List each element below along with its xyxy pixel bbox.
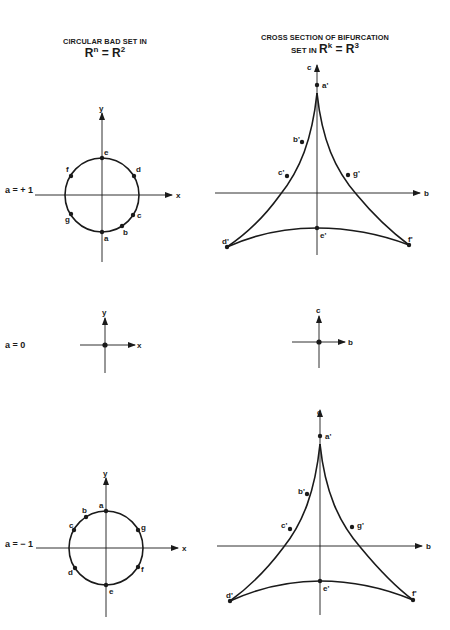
label-d: d [68, 568, 73, 577]
label-c: c [69, 521, 74, 530]
circle-plot-a-plus-1: x y a b c d e f g [35, 104, 181, 262]
y-axis-label: y [103, 469, 108, 478]
c-axis-label: c [317, 408, 322, 417]
point-a-prime [315, 83, 319, 87]
point-b [84, 515, 88, 519]
label-f-prime: f' [408, 235, 413, 244]
label-a-prime: a' [322, 81, 328, 90]
label-c-prime: c' [281, 521, 287, 530]
deltoid-plot-a-minus-1: b c a' b' c' d' e' f' g' [217, 408, 431, 615]
label-b: b [123, 228, 128, 237]
point-d [73, 566, 77, 570]
c-axis-label: c [316, 306, 321, 315]
label-d: d [136, 165, 141, 174]
deltoid-bottom-branch [230, 581, 413, 601]
point-b-prime [305, 492, 309, 496]
deltoid-right-branch [320, 444, 413, 600]
point-f [69, 174, 73, 178]
label-b: b [82, 506, 87, 515]
deltoid-plot-a-0: b c [292, 306, 353, 368]
label-e: e [109, 587, 114, 596]
origin-point [102, 342, 107, 347]
point-e-prime [315, 226, 319, 230]
b-axis-label: b [348, 338, 353, 347]
label-c-prime: c' [278, 168, 284, 177]
circle-plot-a-minus-1: x y a b c d e f g [36, 469, 187, 617]
origin-point [316, 339, 321, 344]
point-e [104, 583, 108, 587]
point-c-prime [288, 527, 292, 531]
x-axis-label: x [176, 191, 181, 200]
label-a: a [99, 501, 104, 510]
label-f-prime: f' [412, 589, 417, 598]
deltoid-left-branch [230, 444, 320, 601]
label-a: a [104, 234, 109, 243]
label-a-prime: a' [325, 432, 331, 441]
deltoid-right-branch [317, 93, 409, 245]
point-a [104, 509, 108, 513]
label-d-prime: d' [222, 237, 229, 246]
point-b-prime [300, 140, 304, 144]
point-f [136, 565, 140, 569]
x-axis-label: x [137, 341, 142, 350]
b-axis-label: b [424, 189, 429, 198]
label-b-prime: b' [293, 135, 300, 144]
label-e: e [104, 148, 109, 157]
deltoid-bottom-branch [227, 228, 409, 247]
label-g: g [65, 215, 70, 224]
label-g-prime: g' [353, 169, 360, 178]
deltoid-left-branch [227, 93, 317, 247]
x-axis-label: x [182, 544, 187, 553]
label-c: c [137, 211, 142, 220]
point-a-prime [318, 434, 322, 438]
label-b-prime: b' [298, 487, 305, 496]
label-e-prime: e' [320, 231, 326, 240]
circle-plot-a-0: x y [80, 308, 142, 373]
point-g [136, 528, 140, 532]
b-axis-label: b [426, 542, 431, 551]
point-f-prime [411, 598, 415, 602]
label-d-prime: d' [226, 591, 233, 600]
label-f: f [66, 165, 69, 174]
label-f: f [141, 565, 144, 574]
point-c-prime [285, 174, 289, 178]
label-g: g [141, 523, 146, 532]
bifurcation-diagram: x y a b c d e f g b c a' b' [0, 0, 450, 630]
point-e-prime [318, 579, 322, 583]
point-d [132, 174, 136, 178]
label-e-prime: e' [323, 584, 329, 593]
deltoid-plot-a-plus-1: b c a' b' c' d' e' f' g' [215, 63, 429, 255]
point-g-prime [346, 173, 350, 177]
point-c [131, 213, 135, 217]
label-g-prime: g' [357, 521, 364, 530]
c-axis-label: c [307, 63, 312, 72]
point-g-prime [350, 525, 354, 529]
y-axis-label: y [102, 308, 107, 317]
y-axis-label: y [99, 104, 104, 113]
